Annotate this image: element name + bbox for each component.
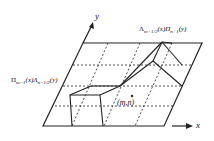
y-axis	[83, 25, 92, 43]
center-point	[131, 95, 133, 97]
x-axis-label: x	[196, 121, 200, 130]
center-label: (m,n)	[117, 99, 134, 107]
y-arrow-icon	[89, 22, 94, 29]
rooftop-function	[120, 42, 182, 86]
pulse-label: Πm−1(x)Λn−1/2(y)	[11, 77, 58, 85]
basis-function-diagram	[0, 0, 214, 141]
x-arrow-icon	[186, 123, 193, 129]
y-axis-label: y	[95, 12, 99, 21]
rooftop-label: Λm+1/2(x)Πn+1(y)	[139, 26, 186, 34]
